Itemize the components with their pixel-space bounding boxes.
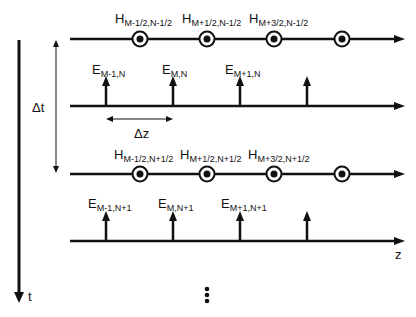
up-arrow-icon	[169, 211, 177, 241]
space-axis-label: z	[395, 248, 402, 261]
up-arrow-icon	[102, 211, 110, 241]
h-label: HM+1/2,N-1/2	[182, 10, 241, 28]
up-arrow-icon	[303, 211, 311, 241]
dz-dimension-arrow	[106, 116, 173, 122]
circled-dot-icon	[200, 167, 215, 182]
h-label: HM+3/2,N+1/2	[248, 146, 309, 164]
circled-dot-icon	[267, 32, 282, 47]
h-label: HM-1/2,N+1/2	[114, 146, 173, 164]
h-field-line-n-minus-half	[70, 35, 405, 43]
circled-dot-icon	[267, 167, 282, 182]
e-label: EM+1,N+1	[221, 195, 267, 213]
e-arrows-row-1	[102, 76, 311, 106]
e-label: EM,N	[162, 61, 187, 79]
time-axis	[14, 40, 24, 303]
dt-label: Δt	[32, 101, 44, 114]
up-arrow-icon	[169, 76, 177, 106]
e-label: EM+1,N	[225, 61, 260, 79]
time-axis-label: t	[28, 290, 32, 303]
h-label: HM-1/2,N-1/2	[115, 10, 172, 28]
circled-dot-icon	[133, 32, 148, 47]
e-label: EM-1,N+1	[88, 195, 131, 213]
circled-dot-icon	[335, 167, 350, 182]
e-arrows-row-2	[102, 211, 311, 241]
circled-dot-icon	[133, 167, 148, 182]
h-label: HM+3/2,N-1/2	[249, 10, 308, 28]
up-arrow-icon	[236, 211, 244, 241]
e-label: EM,N+1	[158, 195, 193, 213]
e-field-line-n	[70, 102, 405, 110]
h-field-line-n-plus-half	[70, 170, 405, 178]
up-arrow-icon	[236, 76, 244, 106]
continuation-dots-icon	[205, 287, 210, 304]
circled-dot-icon	[200, 32, 215, 47]
dz-label: Δz	[134, 127, 149, 140]
h-label: HM+1/2,N+1/2	[180, 146, 241, 164]
dt-dimension-arrow	[53, 40, 59, 173]
up-arrow-icon	[303, 76, 311, 106]
circled-dot-icon	[335, 32, 350, 47]
up-arrow-icon	[102, 76, 110, 106]
e-field-line-n-plus-1	[70, 237, 405, 245]
e-label: EM-1,N	[92, 61, 125, 79]
